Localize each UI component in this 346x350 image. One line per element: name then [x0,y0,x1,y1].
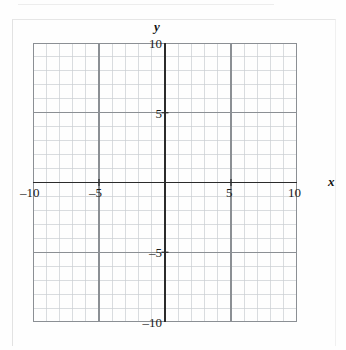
x-tick-label-pos10: 10 [288,186,301,199]
y-tick-label-pos10: 10 [136,37,162,50]
y-tick-label-pos5: 5 [136,107,162,120]
x-axis-label: x [328,175,335,188]
coordinate-grid [33,43,297,322]
grid-svg [33,43,297,322]
x-tick-label-pos5: 5 [226,186,233,199]
y-tick-label-neg5: –5 [131,246,162,259]
y-axis-label: y [154,20,160,33]
figure-page: y x –10 –5 5 10 10 5 –5 –10 [0,0,346,350]
x-tick-label-neg10: –10 [20,186,40,199]
page-frame-top-rule [18,4,274,5]
y-tick-label-neg10: –10 [124,316,162,329]
x-tick-label-neg5: –5 [89,186,102,199]
